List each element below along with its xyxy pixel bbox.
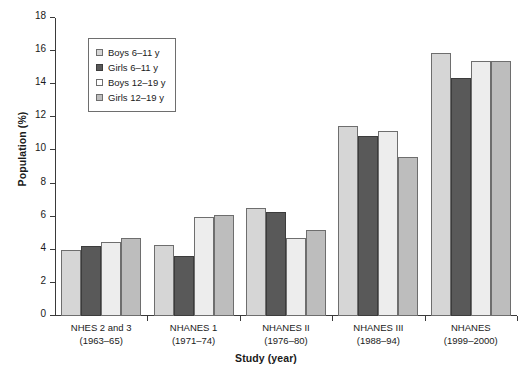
y-axis-tick-label: 18 <box>35 10 46 21</box>
legend-item: Girls 12–19 y <box>96 90 166 105</box>
legend-swatch-icon <box>96 64 103 71</box>
y-axis-tick: 14 <box>50 83 55 84</box>
bar <box>101 242 121 317</box>
y-axis-tick: 6 <box>50 216 55 217</box>
x-axis-category-label: NHANES II(1976–80) <box>240 322 332 347</box>
bar <box>398 157 418 316</box>
x-axis-tick <box>332 316 333 321</box>
bar-group <box>246 18 326 316</box>
legend-item: Boys 12–19 y <box>96 75 166 90</box>
bar <box>214 215 234 316</box>
x-axis-category-label: NHANES(1999–2000) <box>425 322 517 347</box>
bar <box>306 230 326 316</box>
bar <box>81 246 101 316</box>
legend-swatch-icon <box>96 79 103 86</box>
bar-chart: Population (%) 024681012141618 Study (ye… <box>0 0 532 374</box>
bar <box>154 245 174 316</box>
x-axis-tick <box>425 316 426 321</box>
y-axis-line <box>55 18 56 316</box>
bar-group <box>431 18 511 316</box>
y-axis-tick: 2 <box>50 282 55 283</box>
bar <box>266 212 286 316</box>
legend-item: Girls 6–11 y <box>96 60 166 75</box>
y-axis-tick: 18 <box>50 17 55 18</box>
y-axis-tick-label: 4 <box>40 242 46 253</box>
bar <box>378 131 398 316</box>
x-axis-category-label-line: NHANES III <box>332 322 424 335</box>
x-axis-category-label-line: (1963–65) <box>55 335 147 348</box>
x-axis-category-label: NHANES III(1988–94) <box>332 322 424 347</box>
legend-swatch-icon <box>96 94 103 101</box>
x-axis-tick <box>147 316 148 321</box>
x-axis-category-label-line: (1988–94) <box>332 335 424 348</box>
legend-item-label: Girls 12–19 y <box>108 92 164 103</box>
x-axis-title: Study (year) <box>0 352 532 364</box>
x-axis-category-label-line: NHANES 1 <box>147 322 239 335</box>
y-axis-tick-label: 14 <box>35 76 46 87</box>
x-axis-category-label-line: NHANES II <box>240 322 332 335</box>
bar <box>358 136 378 316</box>
x-axis-category-label: NHANES 1(1971–74) <box>147 322 239 347</box>
legend-swatch-icon <box>96 49 103 56</box>
y-axis-tick-label: 0 <box>40 308 46 319</box>
bar-group <box>338 18 418 316</box>
legend: Boys 6–11 yGirls 6–11 yBoys 12–19 yGirls… <box>88 38 176 112</box>
x-axis-category-label-line: NHES 2 and 3 <box>55 322 147 335</box>
bar <box>194 217 214 316</box>
bar <box>491 61 511 316</box>
bar <box>431 53 451 316</box>
y-axis-tick-label: 12 <box>35 109 46 120</box>
bar <box>286 238 306 316</box>
y-axis-tick: 4 <box>50 249 55 250</box>
bar <box>338 126 358 316</box>
legend-item: Boys 6–11 y <box>96 45 166 60</box>
y-axis-tick: 0 <box>50 315 55 316</box>
legend-item-label: Boys 6–11 y <box>108 47 160 58</box>
y-axis-tick-label: 16 <box>35 43 46 54</box>
y-axis-tick: 16 <box>50 50 55 51</box>
y-axis-tick: 12 <box>50 116 55 117</box>
x-axis-tick <box>517 316 518 321</box>
bar <box>174 256 194 316</box>
bar <box>471 61 491 316</box>
x-axis-category-label-line: (1976–80) <box>240 335 332 348</box>
x-axis-category-label-line: NHANES <box>425 322 517 335</box>
bar <box>246 208 266 316</box>
bar <box>451 78 471 316</box>
y-axis-tick-label: 6 <box>40 209 46 220</box>
y-axis-tick-label: 2 <box>40 275 46 286</box>
x-axis-category-label-line: (1999–2000) <box>425 335 517 348</box>
y-axis-tick: 10 <box>50 149 55 150</box>
y-axis-title: Population (%) <box>16 79 28 219</box>
x-axis-category-label: NHES 2 and 3(1963–65) <box>55 322 147 347</box>
y-axis-tick-label: 10 <box>35 142 46 153</box>
bar <box>121 238 141 316</box>
x-axis-tick <box>240 316 241 321</box>
x-axis-category-label-line: (1971–74) <box>147 335 239 348</box>
y-axis-tick: 8 <box>50 183 55 184</box>
legend-item-label: Girls 6–11 y <box>108 62 158 73</box>
bar <box>61 250 81 316</box>
y-axis-tick-label: 8 <box>40 176 46 187</box>
legend-item-label: Boys 12–19 y <box>108 77 166 88</box>
